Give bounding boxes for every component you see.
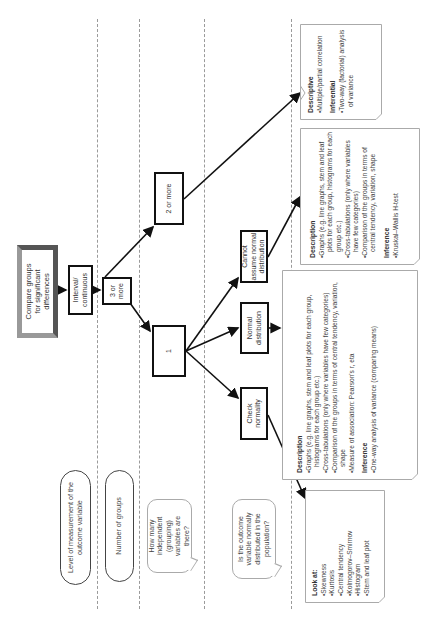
panel-normal-distribution-results: Description Graphs (e.g. line graphs, st… xyxy=(282,270,418,480)
panel-content: Description Graphs (e.g. line graphs, st… xyxy=(309,132,405,258)
section-heading: Inferential xyxy=(329,27,338,113)
section-heading: Look at: xyxy=(311,494,320,596)
start-node-compare-groups: Compare groups for significant differenc… xyxy=(17,245,58,338)
node-check-normality: Check normality xyxy=(240,387,268,440)
node-label: 1 xyxy=(165,349,173,353)
flowchart-canvas: Level of measurement of the outcome vari… xyxy=(0,0,428,631)
panel-content: Descriptive Multiple/partial correlation… xyxy=(307,27,360,113)
list-item: Central tendency xyxy=(337,494,346,596)
list-item: Comparison of the groups in terms of cen… xyxy=(331,275,348,473)
node-cannot-assume-normal: Cannot assume normal distribution xyxy=(240,230,268,283)
list-item: Cross-tabulations (only where variables … xyxy=(322,275,331,473)
list-item: Histogram xyxy=(354,494,363,596)
node-label: 3 or more xyxy=(109,279,126,303)
panel-check-normality-results: Look at: Skewness Kurtosis Central tende… xyxy=(305,490,385,603)
node-label: Check normality xyxy=(246,389,263,438)
list-item: Skewness xyxy=(320,494,329,596)
section-heading: Description xyxy=(296,275,305,473)
list-item: Comparison of the groups in terms of cen… xyxy=(361,132,378,258)
list-item: Cross-tabulations (only where variables … xyxy=(344,132,361,258)
node-interval-continuous: Interval/ continuous xyxy=(68,265,93,315)
section-heading: Inference xyxy=(383,132,392,258)
node-label: Cannot assume normal distribution xyxy=(241,232,266,281)
list-item: Graphs (e.g. line graphs, stem and leaf … xyxy=(318,132,344,258)
panel-content: Description Graphs (e.g. line graphs, st… xyxy=(296,275,384,473)
list-item: Kurtosis xyxy=(328,494,337,596)
panel-cannot-assume-results: Description Graphs (e.g. line graphs, st… xyxy=(300,128,420,265)
node-label: Normal distribution xyxy=(246,304,263,352)
list-item: Graphs (e.g. line graphs, stem and leaf … xyxy=(305,275,322,473)
node-two-or-more: 2 or more xyxy=(154,172,184,225)
list-item: Measure of association: Pearson's r, eta xyxy=(348,275,357,473)
list-item: Kruskal–Wallis H-test xyxy=(392,132,401,258)
list-item: Two-way (factorial) analysis of variance xyxy=(338,27,355,113)
node-normal-distribution: Normal distribution xyxy=(240,302,269,354)
list-item: Stem and leaf plot xyxy=(363,494,372,596)
section-heading: Description xyxy=(309,132,318,258)
node-label: Compare groups for significant differenc… xyxy=(24,250,51,333)
node-label: Interval/ continuous xyxy=(72,267,89,313)
panel-two-or-more-results: Descriptive Multiple/partial correlation… xyxy=(300,24,382,120)
node-one: 1 xyxy=(152,325,186,377)
list-item: Multiple/partial correlation xyxy=(316,27,325,113)
section-heading: Descriptive xyxy=(307,27,316,113)
section-heading: Inference xyxy=(361,275,370,473)
node-label: 2 or more xyxy=(165,184,173,214)
panel-content: Look at: Skewness Kurtosis Central tende… xyxy=(311,494,376,596)
list-item: One-way analysis of variance (comparing … xyxy=(370,275,379,473)
list-item: Kolmogorov–Smirnov xyxy=(346,494,355,596)
node-three-or-more: 3 or more xyxy=(102,277,132,305)
